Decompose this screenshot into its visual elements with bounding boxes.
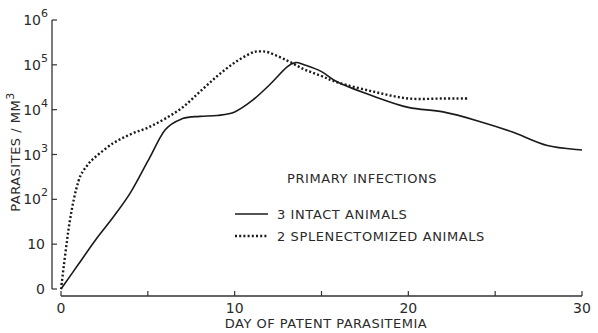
y-tick-label: 103 bbox=[23, 142, 48, 163]
svg-text:PARASITES / MM3: PARASITES / MM3 bbox=[4, 92, 23, 211]
y-axis-title: PARASITES / MM3 bbox=[4, 92, 23, 211]
legend: PRIMARY INFECTIONS 3 INTACT ANIMALS 2 SP… bbox=[235, 171, 485, 244]
y-tick-label: 106 bbox=[23, 7, 48, 28]
y-tick-label: 105 bbox=[23, 52, 48, 73]
x-axis-title: DAY OF PATENT PARASITEMIA bbox=[225, 316, 427, 331]
y-axis-title-main: PARASITES / MM bbox=[8, 100, 23, 212]
y-tick-label: 10 bbox=[27, 236, 45, 252]
x-tick-label: 10 bbox=[226, 300, 244, 316]
legend-label-intact: 3 INTACT ANIMALS bbox=[277, 207, 407, 222]
x-tick-label: 0 bbox=[57, 300, 66, 316]
x-ticks: 0102030 bbox=[57, 291, 591, 316]
y-axis-title-sup: 3 bbox=[4, 92, 17, 100]
chart: 010102103104105106 0102030 DAY OF PATENT… bbox=[0, 0, 598, 333]
y-tick-label: 0 bbox=[36, 281, 45, 297]
legend-title: PRIMARY INFECTIONS bbox=[287, 171, 437, 186]
y-tick-label: 104 bbox=[23, 97, 48, 118]
y-tick-label: 102 bbox=[23, 186, 48, 207]
legend-label-splenectomized: 2 SPLENECTOMIZED ANIMALS bbox=[277, 229, 485, 244]
x-tick-label: 30 bbox=[573, 300, 591, 316]
x-tick-label: 20 bbox=[399, 300, 417, 316]
